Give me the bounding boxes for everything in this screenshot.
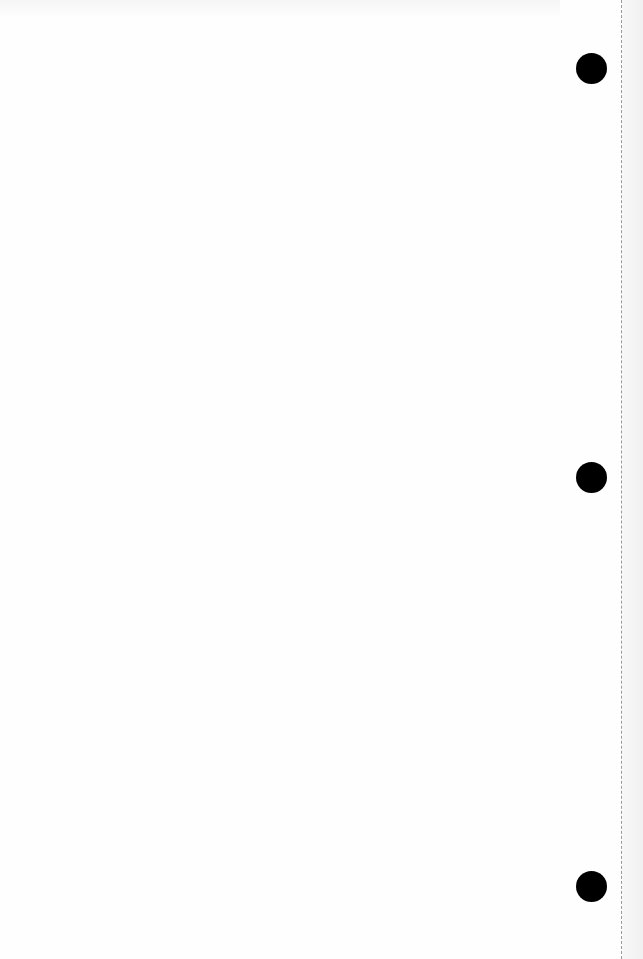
binder-hole-bottom	[576, 871, 607, 902]
binder-hole-middle	[576, 462, 607, 493]
scanned-page	[0, 0, 643, 959]
perforation-line	[621, 0, 622, 959]
binder-hole-top	[576, 53, 607, 84]
faint-bleed-through	[0, 0, 560, 18]
perforated-margin	[622, 0, 643, 959]
